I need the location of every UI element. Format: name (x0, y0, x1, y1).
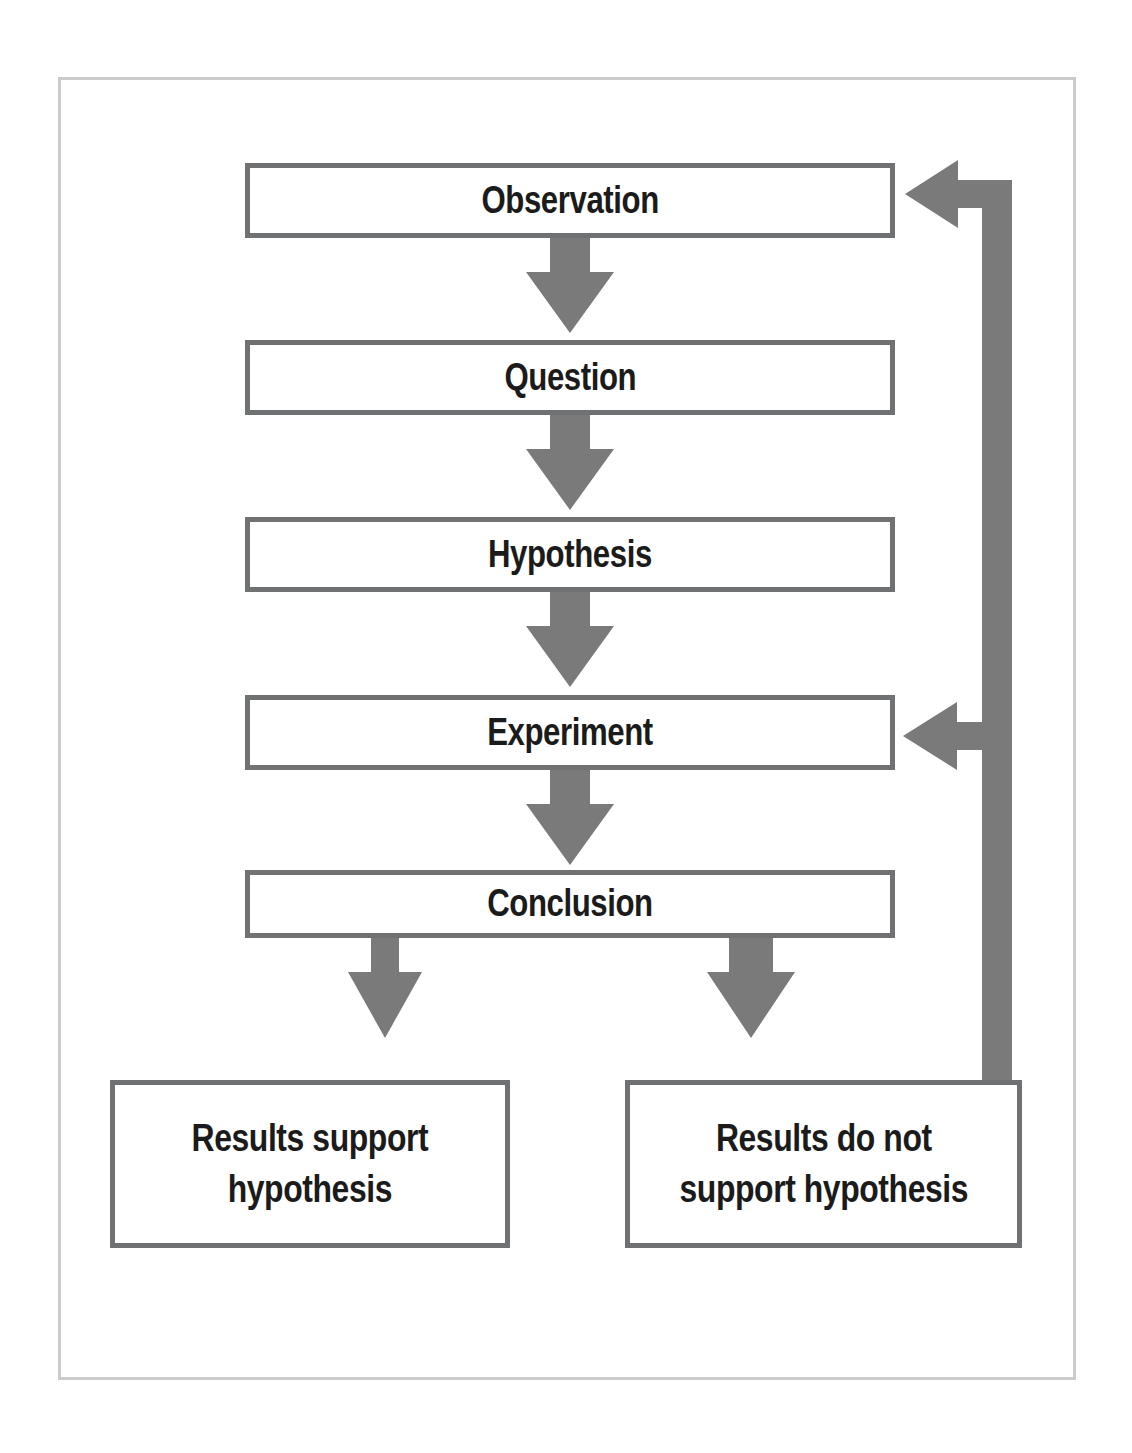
process-label-question: Question (504, 358, 636, 398)
outcome-label-results-support-hypothesis: Results support hypothesis (192, 1113, 429, 1216)
process-label-hypothesis: Hypothesis (488, 535, 652, 575)
outcome-box-results-support-hypothesis[interactable]: Results support hypothesis (110, 1080, 510, 1248)
outcome-box-results-do-not-support-hypothesis[interactable]: Results do not support hypothesis (625, 1080, 1022, 1248)
process-box-experiment[interactable]: Experiment (245, 695, 895, 770)
diagram-canvas: Observation Question Hypothesis Experime… (0, 0, 1132, 1453)
outcome-label-results-do-not-support-hypothesis: Results do not support hypothesis (679, 1113, 968, 1216)
process-label-observation: Observation (481, 181, 658, 221)
process-box-question[interactable]: Question (245, 340, 895, 415)
process-box-conclusion[interactable]: Conclusion (245, 870, 895, 938)
process-box-hypothesis[interactable]: Hypothesis (245, 517, 895, 592)
process-label-experiment: Experiment (487, 713, 653, 753)
process-label-conclusion: Conclusion (487, 884, 653, 924)
process-box-observation[interactable]: Observation (245, 163, 895, 238)
